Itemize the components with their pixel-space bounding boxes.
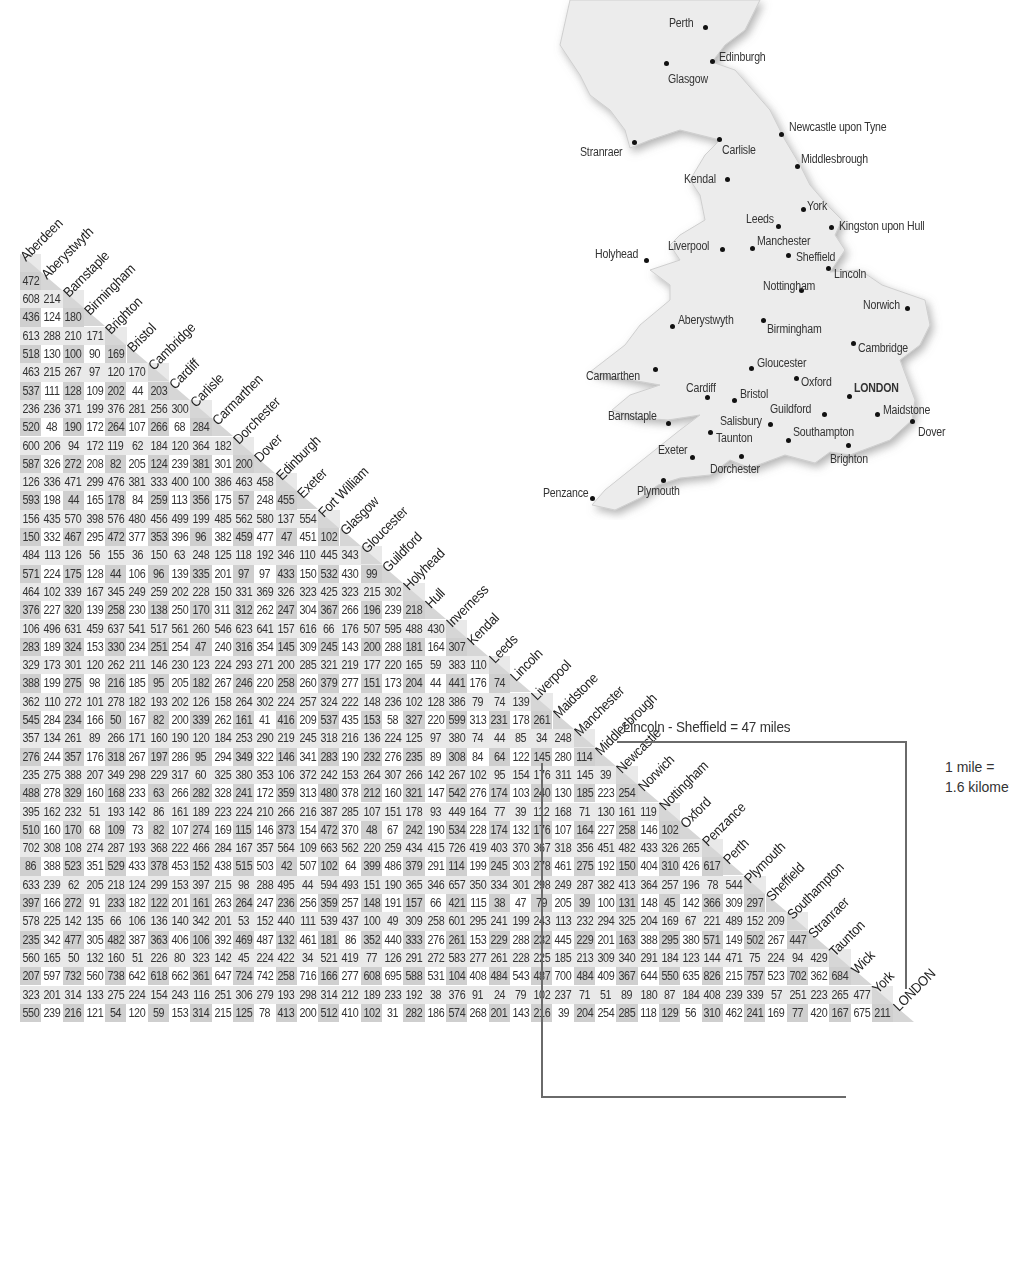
distance-cell: 160 — [40, 821, 63, 839]
distance-cell: 185 — [573, 784, 596, 802]
distance-cell: 330 — [104, 638, 127, 656]
distance-cell: 84 — [126, 491, 149, 509]
distance-cell: 120 — [83, 656, 106, 674]
distance-cell: 153 — [168, 876, 191, 894]
distance-cell: 200 — [275, 656, 298, 674]
distance-cell: 205 — [83, 876, 106, 894]
distance-cell: 305 — [83, 931, 106, 949]
distance-cell: 562 — [339, 839, 362, 857]
distance-cell: 59 — [147, 1004, 170, 1022]
distance-cell: 284 — [189, 418, 212, 436]
distance-cell: 433 — [637, 839, 660, 857]
distance-cell: 206 — [40, 437, 63, 455]
distance-cell: 106 — [275, 766, 298, 784]
distance-cell: 145 — [573, 766, 596, 784]
distance-cell: 102 — [658, 821, 681, 839]
distance-cell: 307 — [381, 766, 404, 784]
distance-cell: 224 — [275, 693, 298, 711]
distance-cell: 84 — [466, 748, 489, 766]
distance-cell: 346 — [424, 876, 447, 894]
distance-cell: 253 — [232, 729, 255, 747]
distance-cell: 277 — [339, 967, 362, 985]
distance-cell: 132 — [83, 949, 106, 967]
distance-cell: 248 — [189, 546, 212, 564]
distance-cell: 151 — [360, 876, 383, 894]
distance-cell: 251 — [147, 638, 170, 656]
distance-cell: 106 — [19, 620, 42, 638]
distance-cell: 107 — [126, 418, 149, 436]
distance-cell: 119 — [637, 803, 660, 821]
distance-cell: 312 — [232, 601, 255, 619]
distance-cell: 299 — [147, 876, 170, 894]
distance-cell: 89 — [83, 729, 106, 747]
distance-cell: 166 — [317, 967, 340, 985]
distance-cell: 578 — [19, 912, 42, 930]
distance-cell: 44 — [62, 491, 85, 509]
distance-cell: 227 — [594, 821, 617, 839]
distance-cell: 178 — [104, 491, 127, 509]
distance-cell: 291 — [424, 857, 447, 875]
distance-cell: 168 — [552, 803, 575, 821]
distance-cell: 130 — [594, 803, 617, 821]
distance-cell: 507 — [296, 857, 319, 875]
distance-cell: 57 — [232, 491, 255, 509]
distance-cell: 257 — [339, 894, 362, 912]
distance-cell: 120 — [189, 729, 212, 747]
distance-cell: 126 — [381, 949, 404, 967]
distance-cell: 258 — [615, 821, 638, 839]
distance-cell: 132 — [275, 931, 298, 949]
distance-cell: 487 — [253, 931, 276, 949]
distance-cell: 354 — [253, 638, 276, 656]
distance-cell: 266 — [168, 784, 191, 802]
distance-cell: 86 — [19, 857, 42, 875]
distance-cell: 742 — [253, 967, 276, 985]
distance-cell: 323 — [339, 583, 362, 601]
distance-cell: 233 — [104, 894, 127, 912]
distance-cell: 198 — [40, 491, 63, 509]
distance-cell: 576 — [104, 510, 127, 528]
distance-cell: 66 — [317, 620, 340, 638]
distance-cell: 317 — [168, 766, 191, 784]
distance-cell: 189 — [189, 803, 212, 821]
distance-cell: 264 — [104, 418, 127, 436]
distance-cell: 275 — [40, 766, 63, 784]
distance-cell: 193 — [126, 839, 149, 857]
distance-cell: 126 — [19, 473, 42, 491]
distance-cell: 310 — [658, 857, 681, 875]
distance-cell: 120 — [126, 1004, 149, 1022]
distance-cell: 430 — [424, 620, 447, 638]
distance-cell: 215 — [211, 1004, 234, 1022]
distance-cell: 275 — [104, 986, 127, 1004]
distance-cell: 184 — [679, 986, 702, 1004]
distance-cell: 126 — [62, 546, 85, 564]
distance-cell: 161 — [232, 711, 255, 729]
distance-cell: 67 — [679, 912, 702, 930]
distance-cell: 357 — [19, 729, 42, 747]
distance-cell: 459 — [83, 620, 106, 638]
distance-cell: 633 — [19, 876, 42, 894]
distance-cell: 78 — [701, 876, 724, 894]
distance-cell: 309 — [594, 949, 617, 967]
distance-cell: 287 — [573, 876, 596, 894]
distance-cell: 520 — [19, 418, 42, 436]
distance-cell: 320 — [62, 601, 85, 619]
distance-cell: 123 — [679, 949, 702, 967]
distance-cell: 220 — [360, 839, 383, 857]
distance-cell: 228 — [509, 949, 532, 967]
distance-cell: 232 — [360, 748, 383, 766]
distance-cell: 314 — [62, 986, 85, 1004]
distance-cell: 410 — [339, 1004, 362, 1022]
distance-cell: 451 — [296, 528, 319, 546]
distance-cell: 271 — [253, 656, 276, 674]
distance-cell: 96 — [189, 528, 212, 546]
distance-cell: 215 — [211, 876, 234, 894]
distance-cell: 489 — [722, 912, 745, 930]
distance-cell: 204 — [573, 1004, 596, 1022]
distance-cell: 562 — [232, 510, 255, 528]
distance-cell: 201 — [168, 894, 191, 912]
distance-cell: 326 — [275, 583, 298, 601]
distance-cell: 148 — [360, 894, 383, 912]
distance-cell: 62 — [62, 876, 85, 894]
distance-cell: 236 — [19, 400, 42, 418]
distance-cell: 100 — [189, 473, 212, 491]
